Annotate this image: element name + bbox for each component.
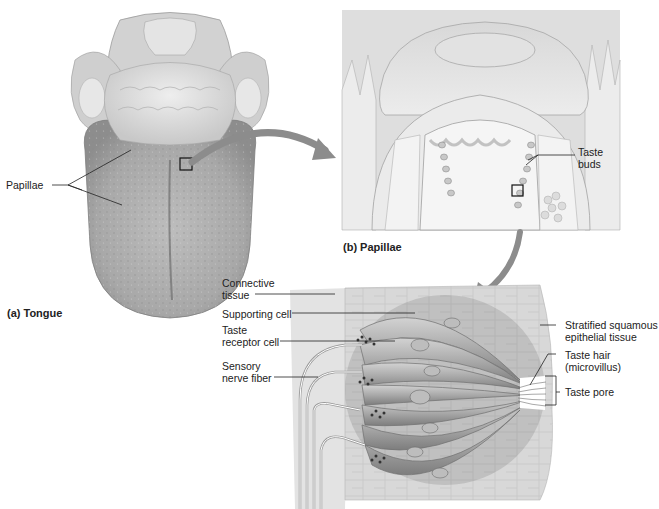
label-taste-buds-line1: Taste [578,146,603,158]
label-supporting-cell: Supporting cell [222,308,291,320]
zoom-arrow-2 [485,232,520,292]
tongue-illustration [71,13,269,319]
caption-papillae: (b) Papillae [343,241,402,253]
label-taste-buds-line2: buds [578,158,601,170]
label-connective-tissue-line2: tissue [222,289,249,301]
label-taste-hair-line1: Taste hair [565,349,611,361]
label-connective-tissue-line1: Connective [222,277,275,289]
label-papillae: Papillae [6,179,43,191]
caption-tongue: (a) Tongue [7,307,62,319]
taste-bud-diagram: Papillae Taste buds (b) Papillae (a) Ton… [0,0,659,509]
label-taste-hair-line2: (microvillus) [565,361,621,373]
label-stratified-line1: Stratified squamous [565,319,658,331]
label-sensory-nerve-line2: nerve fiber [222,372,272,384]
papillae-illustration [342,10,620,230]
diagram-artwork [0,0,659,509]
label-taste-receptor-line2: receptor cell [222,336,279,348]
label-taste-pore: Taste pore [565,386,614,398]
label-sensory-nerve-line1: Sensory [222,360,261,372]
label-stratified-line2: epithelial tissue [565,331,637,343]
label-taste-receptor-line1: Taste [222,324,247,336]
taste-bud-illustration [290,285,553,509]
